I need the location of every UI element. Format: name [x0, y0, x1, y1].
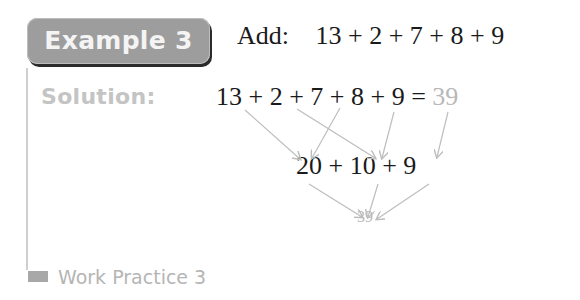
grouping-arrows-icon	[0, 0, 580, 300]
square-bullet-icon	[28, 271, 48, 282]
work-practice-heading: Work Practice 3	[28, 266, 206, 288]
work-practice-label: Work Practice 3	[58, 266, 206, 288]
